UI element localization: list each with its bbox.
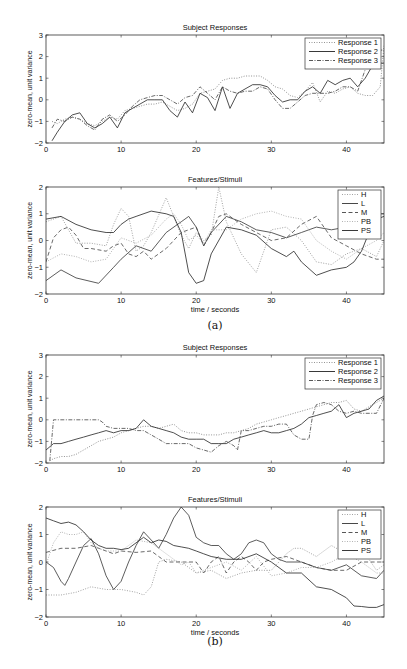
legend-label: L bbox=[361, 519, 365, 528]
x-tick-label: 30 bbox=[267, 145, 275, 154]
figure: Subject Responses010203040−2−10123zero-m… bbox=[0, 0, 407, 669]
y-tick-label: 2 bbox=[39, 372, 43, 381]
y-tick-label: −2 bbox=[34, 290, 43, 299]
y-tick-label: 1 bbox=[39, 74, 43, 83]
series-line-response-1 bbox=[50, 398, 384, 461]
series-line-ps bbox=[46, 518, 384, 607]
y-tick-label: 0 bbox=[39, 415, 43, 424]
chart-panel-a-bottom: Features/Stimuli010203040−2−1012zero-mea… bbox=[26, 175, 384, 314]
y-tick-label: 0 bbox=[39, 558, 43, 567]
y-axis-label: zero-mean, unit variance bbox=[26, 202, 33, 279]
y-tick-label: 1 bbox=[39, 530, 43, 539]
legend: HLMPBPS bbox=[338, 510, 381, 559]
y-tick-label: −1 bbox=[34, 437, 43, 446]
y-tick-label: 2 bbox=[39, 52, 43, 61]
y-tick-label: 0 bbox=[39, 95, 43, 104]
x-tick-label: 40 bbox=[342, 296, 350, 305]
x-axis-label: time / seconds bbox=[191, 305, 240, 314]
chart-title: Features/Stimuli bbox=[188, 495, 243, 504]
legend-label: H bbox=[361, 510, 366, 519]
legend-label: L bbox=[361, 199, 365, 208]
series-line-response-2 bbox=[46, 396, 384, 450]
legend-label: Response 1 bbox=[338, 358, 378, 367]
x-tick-label: 30 bbox=[267, 296, 275, 305]
x-tick-label: 20 bbox=[192, 465, 200, 474]
legend-label: Response 2 bbox=[338, 367, 378, 376]
x-tick-label: 10 bbox=[117, 145, 125, 154]
y-axis-label: zero-mean, unit variance bbox=[26, 50, 33, 127]
x-tick-label: 30 bbox=[267, 619, 275, 628]
x-tick-label: 40 bbox=[342, 619, 350, 628]
x-tick-label: 0 bbox=[44, 145, 48, 154]
y-tick-label: 3 bbox=[39, 31, 43, 40]
x-tick-label: 20 bbox=[192, 145, 200, 154]
legend-label: M bbox=[361, 528, 367, 537]
y-tick-label: −1 bbox=[34, 585, 43, 594]
x-tick-label: 20 bbox=[192, 296, 200, 305]
y-tick-label: −2 bbox=[34, 459, 43, 468]
y-axis-label: zero-mean, unit variance bbox=[26, 523, 33, 600]
x-tick-label: 0 bbox=[44, 465, 48, 474]
series-line-response-3 bbox=[50, 398, 384, 461]
chart-title: Features/Stimuli bbox=[188, 175, 243, 184]
chart-panel-b-bottom: Features/Stimuli010203040−2−1012zero-mea… bbox=[26, 495, 384, 637]
legend-label: Response 2 bbox=[338, 47, 378, 56]
legend-label: H bbox=[361, 190, 366, 199]
legend-label: PS bbox=[361, 546, 371, 555]
y-tick-label: −1 bbox=[34, 117, 43, 126]
series-line-l bbox=[46, 507, 384, 590]
y-tick-label: 2 bbox=[39, 183, 43, 192]
series-line-l bbox=[46, 214, 384, 283]
legend-label: PB bbox=[361, 217, 371, 226]
y-tick-label: 1 bbox=[39, 209, 43, 218]
y-tick-label: 3 bbox=[39, 351, 43, 360]
plot-area bbox=[46, 396, 384, 461]
x-tick-label: 10 bbox=[117, 619, 125, 628]
x-tick-label: 40 bbox=[342, 145, 350, 154]
legend-label: Response 3 bbox=[338, 376, 378, 385]
legend-label: Response 1 bbox=[338, 38, 378, 47]
y-tick-label: −1 bbox=[34, 263, 43, 272]
x-tick-label: 40 bbox=[342, 465, 350, 474]
x-tick-label: 0 bbox=[44, 619, 48, 628]
chart-panel-b-top: Subject Responses010203040−2−10123zero-m… bbox=[26, 343, 384, 474]
series-line-h bbox=[46, 546, 384, 596]
subfigure-caption: (b) bbox=[207, 635, 223, 648]
chart-title: Subject Responses bbox=[183, 343, 248, 352]
y-axis-label: zero-mean, unit variance bbox=[26, 370, 33, 447]
series-line-response-2 bbox=[52, 63, 384, 141]
legend: Response 1Response 2Response 3 bbox=[305, 358, 381, 389]
y-tick-label: −2 bbox=[34, 613, 43, 622]
axes-frame bbox=[46, 187, 384, 294]
y-tick-label: −2 bbox=[34, 139, 43, 148]
series-line-pb bbox=[46, 211, 384, 262]
series-line-m bbox=[46, 214, 384, 262]
plot-area bbox=[46, 507, 384, 607]
axes-frame bbox=[46, 507, 384, 617]
legend: Response 1Response 2Response 3 bbox=[305, 38, 381, 69]
legend-label: Response 3 bbox=[338, 56, 378, 65]
x-tick-label: 10 bbox=[117, 465, 125, 474]
legend-label: PB bbox=[361, 537, 371, 546]
x-tick-label: 30 bbox=[267, 465, 275, 474]
legend-label: M bbox=[361, 208, 367, 217]
x-tick-label: 0 bbox=[44, 296, 48, 305]
x-tick-label: 20 bbox=[192, 619, 200, 628]
y-tick-label: 2 bbox=[39, 503, 43, 512]
x-tick-label: 10 bbox=[117, 296, 125, 305]
chart-panel-a-top: Subject Responses010203040−2−10123zero-m… bbox=[26, 23, 384, 154]
chart-title: Subject Responses bbox=[183, 23, 248, 32]
series-line-ps bbox=[46, 211, 384, 283]
y-tick-label: 0 bbox=[39, 236, 43, 245]
legend: HLMPBPS bbox=[338, 190, 381, 239]
y-tick-label: 1 bbox=[39, 394, 43, 403]
plot-area bbox=[46, 187, 384, 283]
legend-label: PS bbox=[361, 226, 371, 235]
subfigure-caption: (a) bbox=[207, 319, 222, 332]
